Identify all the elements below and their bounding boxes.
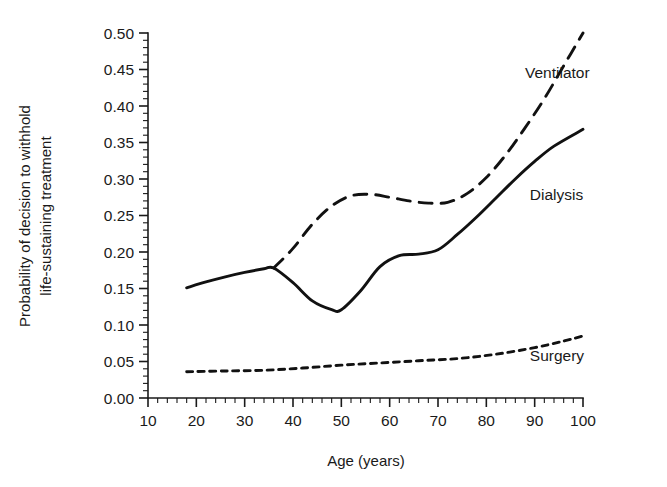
x-tick-label: 100	[570, 412, 596, 429]
y-tick-label: 0.25	[104, 207, 134, 224]
series-label-dialysis: Dialysis	[530, 186, 584, 203]
series-line-dialysis	[187, 129, 583, 311]
y-tick-label: 0.30	[104, 171, 135, 188]
y-tick-label: 0.50	[104, 25, 135, 42]
y-tick-label: 0.15	[104, 280, 134, 297]
x-tick-label: 30	[236, 412, 254, 429]
x-tick-label: 20	[188, 412, 206, 429]
x-tick-label: 10	[139, 412, 157, 429]
chart-svg: 0.000.050.100.150.200.250.300.350.400.45…	[0, 0, 667, 487]
x-tick-label: 70	[429, 412, 447, 429]
x-axis-major-ticks	[148, 398, 583, 407]
y-axis-title-line2: life-sustaining treatment	[37, 136, 54, 296]
x-tick-label: 50	[333, 412, 351, 429]
y-axis-title-line1: Probability of decision to withhold	[16, 105, 33, 327]
y-tick-label: 0.45	[104, 61, 134, 78]
y-tick-label: 0.20	[104, 244, 135, 261]
y-tick-label: 0.00	[104, 390, 135, 407]
x-axis-title: Age (years)	[327, 452, 405, 469]
y-tick-label: 0.10	[104, 317, 135, 334]
y-tick-label: 0.05	[104, 353, 134, 370]
series-line-surgery	[187, 336, 583, 372]
x-tick-label: 80	[478, 412, 496, 429]
chart-figure: 0.000.050.100.150.200.250.300.350.400.45…	[0, 0, 667, 487]
series-label-ventilator: Ventilator	[525, 64, 590, 81]
y-tick-label: 0.35	[104, 134, 134, 151]
series-label-surgery: Surgery	[530, 347, 585, 364]
series-labels: Ventilator Dialysis Surgery	[525, 64, 590, 364]
x-tick-label: 90	[526, 412, 544, 429]
y-tick-label: 0.40	[104, 98, 135, 115]
y-axis-tick-labels: 0.000.050.100.150.200.250.300.350.400.45…	[104, 25, 135, 407]
y-axis-major-ticks	[139, 33, 148, 398]
x-tick-label: 60	[381, 412, 399, 429]
x-axis: 102030405060708090100	[139, 398, 596, 429]
plot-curves	[187, 33, 583, 372]
x-tick-label: 40	[284, 412, 302, 429]
y-axis: 0.000.050.100.150.200.250.300.350.400.45…	[104, 25, 148, 407]
x-axis-tick-labels: 102030405060708090100	[139, 412, 596, 429]
